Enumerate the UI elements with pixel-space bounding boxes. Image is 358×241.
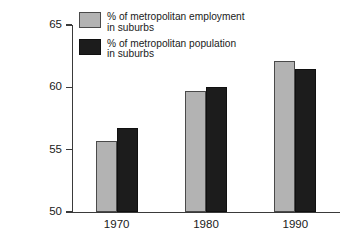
legend-item-population: % of metropolitan population in suburbs [79, 39, 249, 61]
y-tick-mark [66, 24, 72, 25]
x-tick-label-1990: 1990 [265, 219, 325, 231]
legend-item-employment: % of metropolitan employment in suburbs [79, 12, 249, 34]
x-tick-label-1970: 1970 [87, 219, 147, 231]
chart-legend: % of metropolitan employment in suburbs … [79, 12, 249, 65]
gray-swatch-icon [79, 12, 101, 28]
legend-label-employment: % of metropolitan employment in suburbs [107, 12, 245, 34]
bar-1970-population [117, 128, 138, 212]
x-tick-label-1980: 1980 [176, 219, 236, 231]
bar-1990-employment [274, 61, 295, 212]
bar-1980-population [206, 87, 227, 212]
y-tick-mark [66, 87, 72, 88]
y-tick-mark [66, 211, 72, 212]
black-swatch-icon [79, 39, 101, 55]
bar-1970-employment [96, 141, 117, 212]
y-tick-mark [66, 149, 72, 150]
y-tick-label: 50 [32, 206, 62, 218]
y-tick-label: 60 [32, 81, 62, 93]
bar-1990-population [295, 69, 316, 212]
y-tick-label: 55 [32, 144, 62, 156]
y-tick-label: 65 [32, 19, 62, 31]
legend-label-population: % of metropolitan population in suburbs [107, 39, 236, 61]
bar-1980-employment [185, 91, 206, 212]
y-axis-line [72, 25, 73, 212]
bar-chart: Percent in suburbs 50556065 197019801990… [0, 0, 358, 241]
